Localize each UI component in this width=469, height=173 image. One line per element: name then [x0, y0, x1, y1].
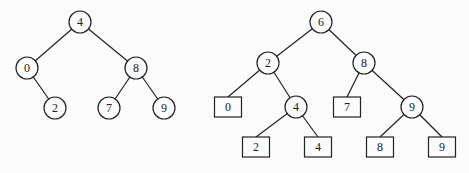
edges — [27, 22, 442, 137]
circle-node: 9 — [153, 97, 175, 119]
circle-node: 8 — [125, 57, 147, 79]
node-label: 0 — [24, 61, 30, 75]
node-label: 8 — [133, 61, 139, 75]
circle-node: 4 — [285, 96, 307, 118]
node-label: 9 — [409, 100, 415, 114]
node-label: 9 — [161, 101, 167, 115]
circle-node: 2 — [44, 97, 66, 119]
nodes: 40827962804792489 — [16, 11, 456, 157]
leaf-box-node: 9 — [429, 137, 456, 157]
node-label: 8 — [361, 56, 367, 70]
node-label: 7 — [106, 101, 112, 115]
leaf-box-node: 8 — [367, 137, 394, 157]
binary-search-tree: 408279 — [16, 11, 175, 119]
node-label: 8 — [377, 140, 383, 154]
node-label: 4 — [315, 140, 321, 154]
node-label: 2 — [52, 101, 58, 115]
node-label: 7 — [344, 100, 350, 114]
circle-node: 8 — [353, 52, 375, 74]
node-label: 4 — [293, 100, 299, 114]
tree-diagram: 40827962804792489 — [0, 0, 469, 173]
circle-node: 0 — [16, 57, 38, 79]
leaf-box-node: 7 — [334, 97, 361, 117]
circle-node: 2 — [257, 52, 279, 74]
leaf-box-node: 4 — [305, 137, 332, 157]
node-label: 6 — [318, 15, 324, 29]
leaf-box-node: 0 — [215, 97, 242, 117]
circle-node: 9 — [401, 96, 423, 118]
circle-node: 4 — [69, 11, 91, 33]
node-label: 2 — [253, 140, 259, 154]
node-label: 9 — [439, 140, 445, 154]
node-label: 2 — [265, 56, 271, 70]
leaf-box-node: 2 — [243, 137, 270, 157]
node-label: 0 — [225, 100, 231, 114]
leaf-tree: 62804792489 — [215, 11, 456, 157]
node-label: 4 — [77, 15, 83, 29]
circle-node: 6 — [310, 11, 332, 33]
circle-node: 7 — [98, 97, 120, 119]
